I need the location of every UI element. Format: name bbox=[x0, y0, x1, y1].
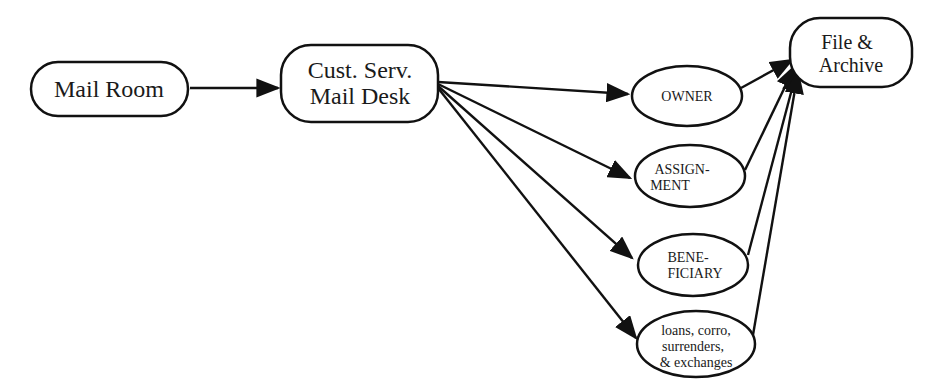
node-label-line3: & exchanges bbox=[660, 355, 733, 370]
node-cust-serv-mail-desk: Cust. Serv. Mail Desk bbox=[281, 45, 438, 122]
node-label-line1: File & bbox=[821, 31, 873, 53]
edge-custserv-to-owner bbox=[438, 82, 628, 94]
node-assignment: ASSIGN- MENT bbox=[635, 145, 745, 207]
node-label-line1: BENE- bbox=[667, 250, 709, 265]
node-label-line2: FICIARY bbox=[667, 266, 722, 281]
node-label-line2: MENT bbox=[650, 178, 690, 193]
node-owner: OWNER bbox=[632, 66, 742, 126]
node-label: OWNER bbox=[661, 89, 713, 104]
node-loans-corro-surrenders-exchanges: loans, corro, surrenders, & exchanges bbox=[637, 311, 755, 377]
edge-custserv-to-loans bbox=[438, 88, 636, 338]
edge-owner-to-archive bbox=[741, 60, 792, 88]
edge-custserv-to-beneficiary bbox=[438, 86, 632, 258]
flowchart-diagram: Mail Room Cust. Serv. Mail Desk OWNER AS… bbox=[0, 0, 943, 388]
node-label-line1: ASSIGN- bbox=[654, 162, 710, 177]
node-label-line2: Mail Desk bbox=[310, 83, 411, 109]
node-beneficiary: BENE- FICIARY bbox=[638, 234, 748, 296]
node-label-line1: loans, corro, bbox=[661, 323, 731, 338]
node-file-archive: File & Archive bbox=[790, 18, 912, 87]
node-label-line2: surrenders, bbox=[662, 339, 724, 354]
node-mail-room: Mail Room bbox=[31, 62, 188, 116]
node-label-line1: Cust. Serv. bbox=[308, 57, 412, 83]
edge-loans-to-archive bbox=[753, 72, 798, 335]
edge-custserv-to-assignment bbox=[438, 84, 630, 178]
node-label: Mail Room bbox=[54, 76, 164, 102]
node-label-line2: Archive bbox=[819, 54, 884, 76]
